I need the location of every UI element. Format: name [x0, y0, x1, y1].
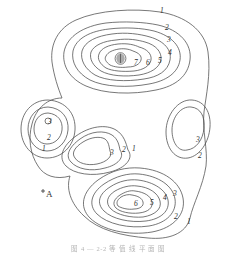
- contour-label-s-2: 2: [174, 212, 178, 221]
- contour-label-w-3: 3: [47, 117, 52, 126]
- contour-north-level-3: [73, 28, 181, 86]
- contour-label-s-5: 5: [150, 198, 154, 207]
- contour-label-s-6: 6: [134, 199, 138, 208]
- contour-label-n-4: 4: [168, 48, 172, 57]
- contour-label-w-2: 2: [47, 133, 51, 142]
- contour-label-c-1: 1: [132, 144, 136, 153]
- contour-label-n-6: 6: [146, 58, 150, 67]
- north-peak-marker: [115, 53, 126, 65]
- contour-label-n-7: 7: [134, 58, 138, 67]
- contour-south-level-6-inner: [117, 195, 143, 210]
- contour-label-s-3: 3: [172, 189, 177, 198]
- contour-figure: 1 2 3 4 5 6 7 3 2 1 3 2 1 3 2 6 5 4 3 2 …: [0, 0, 237, 254]
- contour-north-level-2: [64, 22, 191, 93]
- contour-label-n-1: 1: [160, 6, 164, 15]
- contour-label-c-2: 2: [122, 145, 126, 154]
- contour-label-e-3: 3: [195, 135, 200, 144]
- contour-label-e-2: 2: [198, 151, 202, 160]
- contour-label-n-3: 3: [166, 35, 171, 44]
- figure-caption: 图 4 — 2-2 等 值 线 平 面 图: [0, 243, 237, 253]
- reference-point-a: A: [41, 189, 53, 199]
- contour-central-level-1: [62, 127, 130, 175]
- cross-icon: [41, 189, 45, 193]
- contour-central-level-3: [73, 137, 110, 164]
- contour-label-c-3: 3: [109, 148, 114, 157]
- contour-west-level-1: [21, 100, 75, 158]
- contour-label-n-2: 2: [165, 23, 169, 32]
- contour-level-1-envelope: [30, 10, 209, 238]
- contour-label-n-5: 5: [158, 56, 162, 65]
- contour-label-w-1: 1: [42, 144, 46, 153]
- contour-plot: 1 2 3 4 5 6 7 3 2 1 3 2 1 3 2 6 5 4 3 2 …: [0, 0, 237, 254]
- contour-label-s-1: 1: [187, 217, 191, 226]
- contour-label-s-4: 4: [163, 193, 167, 202]
- reference-point-a-label: A: [46, 189, 53, 199]
